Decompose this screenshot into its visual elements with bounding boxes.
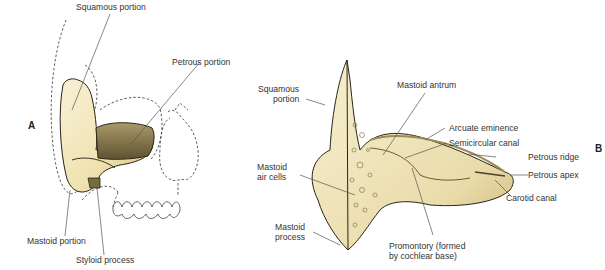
panel-a-letter: A	[28, 120, 35, 131]
label-semicircular-canal: Semicircular canal	[449, 138, 519, 148]
label-line: Mastoid	[257, 162, 287, 172]
label-petrous-ridge: Petrous ridge	[528, 152, 579, 162]
label-line: Promontory (formed	[389, 241, 465, 251]
panel-a-teeth	[113, 192, 180, 219]
temporal-bone-lateral	[60, 79, 154, 192]
label-carotid-canal: Carotid canal	[506, 193, 557, 203]
label-arcuate-eminence: Arcuate eminence	[449, 123, 518, 133]
label-mastoid-process: Mastoid process	[275, 222, 305, 242]
label-squamous-portion: Squamous portion	[76, 2, 146, 12]
label-styloid-process: Styloid process	[76, 255, 134, 265]
panel-b-letter: B	[595, 143, 602, 154]
label-petrous-apex: Petrous apex	[528, 170, 579, 180]
label-line: portion	[258, 94, 299, 104]
label-line: air cells	[257, 172, 287, 182]
label-line: by cochlear base)	[389, 251, 465, 261]
label-mastoid-antrum: Mastoid antrum	[397, 80, 456, 90]
label-promontory: Promontory (formed by cochlear base)	[389, 241, 465, 261]
label-petrous-portion: Petrous portion	[172, 57, 230, 67]
label-mastoid-portion: Mastoid portion	[27, 236, 86, 246]
label-line: Mastoid	[275, 222, 305, 232]
label-line: Squamous	[258, 84, 299, 94]
label-line: process	[275, 232, 305, 242]
label-mastoid-air-cells: Mastoid air cells	[257, 162, 287, 182]
label-squamous-portion-b: Squamous portion	[258, 84, 299, 104]
